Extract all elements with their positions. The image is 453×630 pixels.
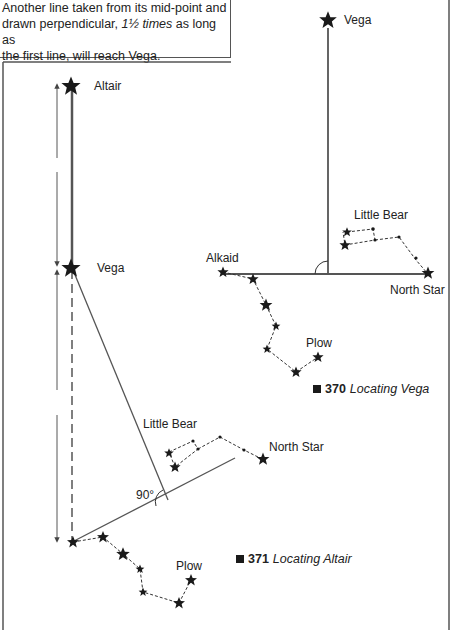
figure-370-caption: 370Locating Vega [325, 382, 429, 396]
frame [3, 0, 449, 630]
little-bear-lines [343, 229, 428, 274]
little-bear-lines [169, 437, 262, 467]
north-star-label: North Star [390, 283, 445, 297]
little-bear-star-icon [242, 448, 245, 451]
vega-star-icon [319, 11, 337, 28]
plow-star-icon [247, 273, 258, 284]
right-angle-arc [315, 261, 328, 274]
plow-star-icon [260, 299, 273, 311]
vega-label: Vega [344, 13, 372, 27]
figure-bullet-icon [236, 555, 244, 563]
figure-bullet-icon [313, 385, 321, 393]
plow-label: Plow [306, 336, 332, 350]
little-bear-star-icon [373, 238, 376, 241]
little-bear-star-icon [164, 448, 174, 457]
little-bear-label: Little Bear [354, 208, 408, 222]
little-bear-star-icon [397, 235, 400, 238]
star-diagram: Vega Little Bear North Star Alkaid Plow … [0, 0, 453, 630]
vega-star-icon [61, 258, 80, 276]
plow-label: Plow [176, 559, 202, 573]
perpendicular-line [73, 270, 168, 500]
north-star-icon [422, 267, 435, 279]
little-bear-label: Little Bear [143, 417, 197, 431]
plow-star-icon [173, 597, 185, 608]
angle-label: 90° [136, 488, 154, 502]
plow-star-icon [139, 588, 148, 596]
alkaid-label: Alkaid [206, 251, 239, 265]
little-bear-star-icon [169, 461, 180, 472]
north-star-icon [257, 453, 270, 465]
little-bear-star-icon [414, 256, 417, 259]
plow-lines [73, 537, 191, 603]
alkaid-star-icon [217, 266, 228, 277]
little-bear-star-icon [218, 435, 221, 438]
little-bear-star-icon [191, 439, 194, 442]
plow-star-icon [312, 351, 323, 362]
little-bear-star-icon [196, 447, 199, 450]
plow-star-icon [185, 574, 197, 585]
plow-star-icon [272, 322, 281, 330]
plow-star-icon [290, 366, 301, 377]
plow-star-icon [67, 536, 79, 547]
plow-lines [223, 272, 318, 372]
figure-371-caption: 371Locating Altair [248, 552, 352, 566]
figure-370: Vega Little Bear North Star Alkaid Plow … [206, 11, 445, 396]
plow-north-star-line [74, 458, 235, 541]
little-bear-star-icon [371, 227, 375, 231]
little-bear-star-icon [339, 239, 350, 250]
altair-label: Altair [94, 79, 121, 93]
north-star-label: North Star [269, 440, 324, 454]
vega-label: Vega [97, 261, 125, 275]
